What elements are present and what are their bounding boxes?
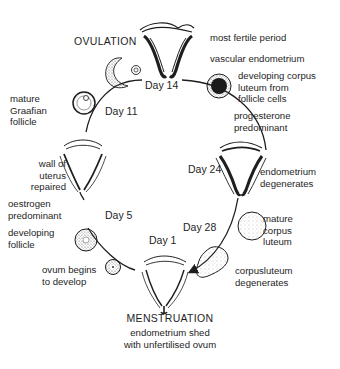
developing-corpus-luteum-icon bbox=[207, 74, 231, 98]
degenerating-corpus-luteum-icon bbox=[196, 247, 228, 278]
graafian-follicle-icon bbox=[73, 92, 95, 114]
menstrual-cycle-diagram: OVULATION MENSTRUATION endometrium shed … bbox=[0, 0, 340, 369]
ovulation-label: OVULATION bbox=[74, 36, 137, 48]
released-ovum-icon bbox=[132, 66, 141, 75]
day-28-label: Day 28 bbox=[183, 222, 216, 234]
day-11-label: Day 11 bbox=[105, 106, 138, 118]
day-14-label: Day 14 bbox=[145, 80, 178, 92]
menstruation-note: endometrium shed with unfertilised ovum bbox=[106, 327, 234, 350]
oestrogen-label: oestrogen predominant bbox=[8, 198, 82, 221]
endometrium-degenerates-label: endometrium degenerates bbox=[260, 166, 316, 189]
mature-graafian-label: mature Graafian follicle bbox=[10, 93, 70, 128]
ruptured-follicle-icon bbox=[106, 58, 128, 88]
mature-corpus-luteum-icon bbox=[238, 212, 266, 240]
uterus-day24-icon bbox=[216, 142, 266, 195]
wall-repaired-label: wall of uterus repaired bbox=[20, 158, 66, 193]
day-1-label: Day 1 bbox=[149, 235, 176, 247]
day-24-label: Day 24 bbox=[188, 164, 221, 176]
mature-corpus-luteum-label: mature corpus luteum bbox=[263, 213, 293, 248]
corpus-luteum-degenerates-label: corpusluteum degenerates bbox=[235, 265, 293, 288]
ovum-begins-label: ovum begins to develop bbox=[42, 264, 108, 287]
developing-follicle-icon bbox=[75, 229, 97, 251]
menstruation-label: MENSTRUATION bbox=[118, 313, 222, 325]
uterus-repaired-icon bbox=[60, 140, 106, 192]
uterus-ovulation-icon bbox=[140, 23, 194, 77]
progesterone-label: progesterone predominant bbox=[234, 110, 291, 133]
most-fertile-label: most fertile period bbox=[210, 32, 286, 44]
developing-follicle-label: developing follicle bbox=[8, 227, 74, 250]
uterus-menstruation-icon bbox=[142, 256, 188, 314]
developing-corpus-luteum-label: developing corpus luteum from follicle c… bbox=[238, 70, 316, 105]
day-5-label: Day 5 bbox=[105, 210, 132, 222]
vascular-endometrium-label: vascular endometrium bbox=[210, 53, 304, 65]
